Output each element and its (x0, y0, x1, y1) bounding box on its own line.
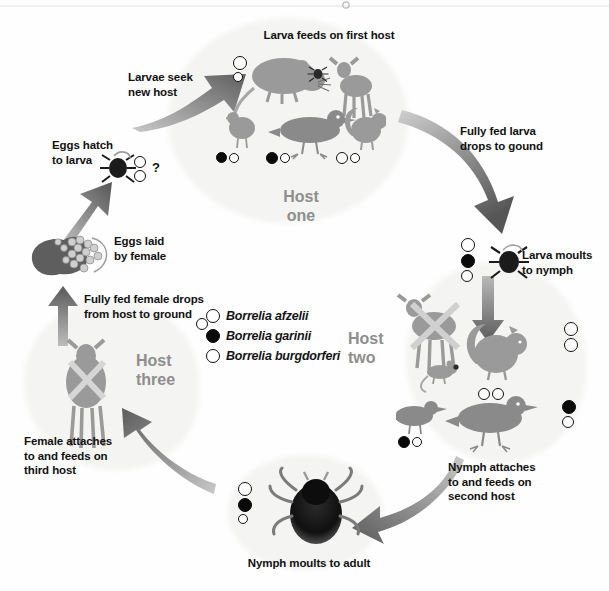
marker-open-circle (238, 514, 248, 524)
marker-filled-circle (206, 329, 220, 343)
marker-open-circle (134, 156, 146, 168)
dots-bird-right-host-two (562, 400, 576, 428)
marker-open-circle (478, 388, 490, 400)
label-larva-moults-to-nymph: Larva moults to nymph (522, 248, 606, 277)
label-fully-fed-larva-drops: Fully fed larva drops to gound (460, 124, 572, 153)
marker-filled-circle (266, 152, 278, 164)
marker-open-circle (562, 416, 574, 428)
legend-item-borrelia-burgdorferi: Borrelia burgdorferi (206, 346, 346, 366)
marker-open-circle (336, 152, 348, 164)
arrow-fully-fed-larva-drops (398, 100, 528, 240)
marker-open-circle (280, 153, 290, 163)
marker-open-circle (564, 338, 578, 352)
legend-label: Borrelia afzelii (226, 309, 308, 323)
legend-item-borrelia-afzelii: Borrelia afzelii (206, 306, 346, 326)
marker-open-circle (238, 482, 252, 496)
host-two-animals (396, 288, 576, 453)
label-eggs-hatch-to-larva: Eggs hatch to larva (52, 138, 132, 167)
marker-open-circle (492, 388, 504, 400)
dots-mouse-host-one (233, 56, 247, 82)
dots-adult-tick (238, 482, 252, 524)
marker-open-circle (233, 56, 247, 70)
legend: Borrelia afzelii Borrelia garinii Borrel… (206, 306, 346, 366)
marker-filled-circle (238, 498, 252, 512)
marker-filled-circle (398, 436, 410, 448)
marker-open-circle (564, 322, 578, 336)
marker-filled-circle (562, 400, 576, 414)
legend-label: Borrelia burgdorferi (226, 349, 340, 363)
marker-open-circle (233, 72, 243, 82)
label-fully-fed-female-drops: Fully fed female drops from host to grou… (84, 292, 216, 321)
label-nymph-attaches-second-host: Nymph attaches to and feeds on second ho… (448, 460, 568, 504)
label-host-three: Host three (136, 352, 214, 390)
legend-item-borrelia-garinii: Borrelia garinii (206, 326, 346, 346)
marker-open-circle (412, 437, 422, 447)
label-nymph-moults-to-adult: Nymph moults to adult (204, 556, 414, 571)
dots-squirrel-host-one (336, 152, 360, 164)
dots-mouse-host-two (478, 388, 504, 400)
adult-tick-icon (268, 466, 364, 552)
dots-larva-moults-nymph (461, 238, 475, 282)
host-one-animals (226, 48, 386, 173)
legend-label: Borrelia garinii (226, 329, 311, 343)
marker-open-circle (461, 238, 475, 252)
label-female-attaches-third-host: Female attaches to and feeds on third ho… (24, 434, 134, 478)
dots-squirrel-host-two (564, 322, 578, 352)
marker-open-circle (134, 170, 146, 182)
label-larva-feeds-on-first-host: Larva feeds on first host (234, 28, 424, 43)
marker-open-circle (229, 153, 239, 163)
dots-bird-left-host-two (398, 436, 422, 448)
unknown-marker: ? (152, 160, 160, 175)
label-eggs-laid-by-female: Eggs laid by female (114, 234, 194, 263)
dots-eggs-hatch-larva (134, 156, 146, 182)
label-larvae-seek-new-host: Larvae seek new host (128, 70, 218, 99)
dots-bird-left-host-one (216, 152, 239, 163)
egg-mass-and-female-tick (28, 226, 128, 284)
label-host-two: Host two (348, 330, 414, 368)
scan-artifact-topline (0, 0, 609, 14)
dots-bird-center-host-one (266, 152, 290, 164)
marker-open-circle (461, 270, 473, 282)
marker-filled-circle (461, 254, 475, 268)
label-host-one: Host one (266, 188, 336, 226)
tick-life-cycle-diagram: ? Borrelia afzelii Borrelia (0, 0, 609, 591)
marker-open-circle (350, 153, 360, 163)
marker-filled-circle (216, 152, 227, 163)
